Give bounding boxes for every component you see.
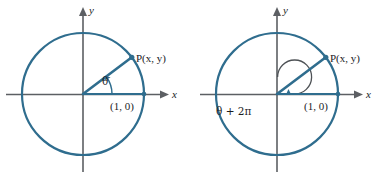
unit-point-label: (1, 0) — [304, 100, 328, 113]
unit-point-label: (1, 0) — [110, 100, 134, 113]
y-axis — [79, 7, 87, 172]
angle-theta-plus-2pi-label: θ + 2π — [216, 105, 251, 117]
math-diagram-svg: x y P(x, y) (1, 0) θ — [0, 0, 377, 179]
point-p-dot — [129, 55, 134, 60]
y-axis — [273, 7, 281, 172]
y-axis-label: y — [282, 4, 288, 16]
x-axis-label: x — [365, 88, 371, 100]
y-axis-arrowhead — [79, 7, 87, 16]
right-panel: x y P(x, y) (1, 0) θ + 2π — [200, 4, 371, 172]
angle-theta-label: θ — [102, 75, 108, 87]
figure-root: x y P(x, y) (1, 0) θ — [0, 0, 377, 179]
y-axis-arrowhead — [273, 7, 281, 16]
point-p-dot — [323, 55, 328, 60]
left-panel: x y P(x, y) (1, 0) θ — [6, 4, 177, 172]
y-axis-label: y — [88, 4, 94, 16]
x-axis-label: x — [171, 88, 177, 100]
unit-point-dot — [142, 92, 147, 97]
point-p-label: P(x, y) — [136, 52, 166, 65]
point-p-label: P(x, y) — [330, 52, 360, 65]
x-axis-arrowhead — [160, 91, 169, 99]
unit-point-dot — [336, 92, 341, 97]
x-axis-arrowhead — [354, 91, 363, 99]
